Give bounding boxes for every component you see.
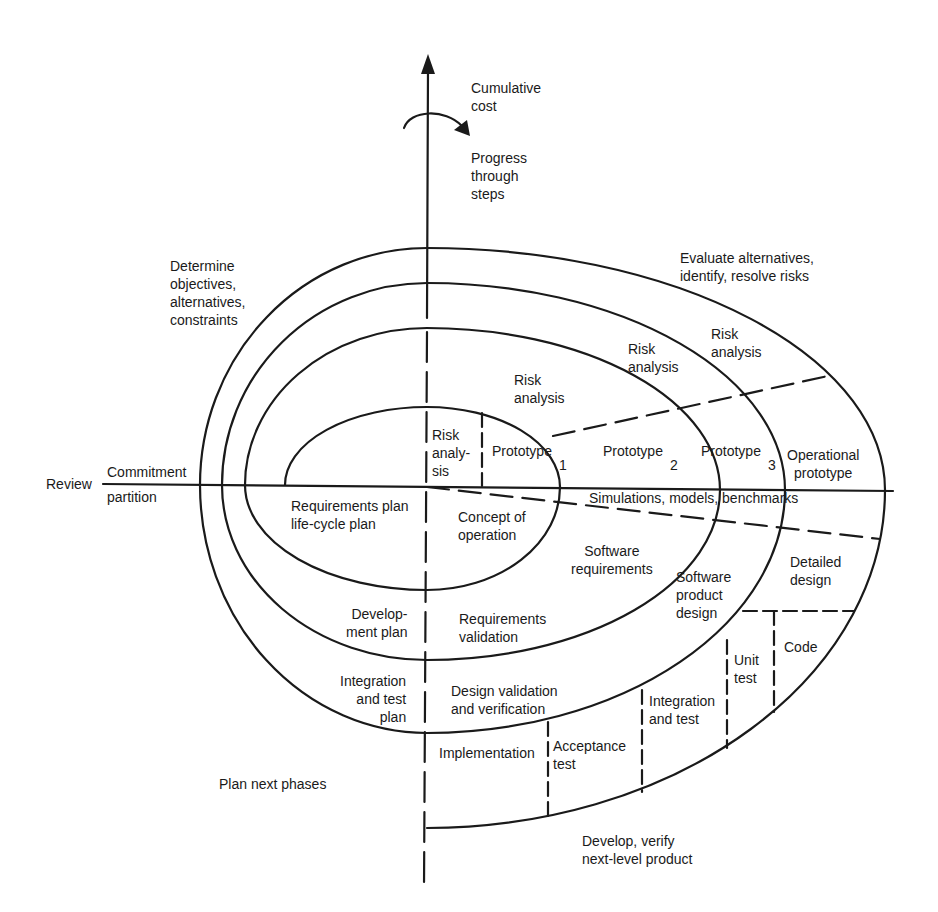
review-label: Review bbox=[46, 475, 92, 493]
integration-and-test-label: Integration and test bbox=[649, 692, 715, 728]
quadrant-determine-objectives: Determine objectives, alternatives, cons… bbox=[170, 257, 245, 329]
quadrant-evaluate-alternatives: Evaluate alternatives, identify, resolve… bbox=[680, 249, 814, 285]
design-validation-label: Design validation and verification bbox=[451, 682, 558, 718]
unit-test-label: Unit test bbox=[734, 651, 759, 687]
vertical-axis-upper bbox=[427, 68, 428, 318]
spiral-model-diagram: Cumulative cost Progress through steps R… bbox=[0, 0, 938, 912]
implementation-label: Implementation bbox=[439, 744, 535, 762]
detailed-design-label: Detailed design bbox=[790, 553, 841, 589]
commitment-label: Commitment bbox=[107, 463, 186, 481]
requirements-plan-label: Requirements plan life-cycle plan bbox=[291, 497, 409, 533]
acceptance-test-label: Acceptance test bbox=[553, 737, 626, 773]
risk-analysis-1: Risk analy- sis bbox=[432, 426, 470, 480]
progress-label: Progress through steps bbox=[471, 149, 527, 203]
code-label: Code bbox=[784, 638, 817, 656]
cumulative-cost-arrowhead bbox=[421, 54, 435, 74]
spiral-curve bbox=[200, 248, 885, 828]
concept-of-operation-label: Concept of operation bbox=[458, 508, 526, 544]
partition-label: partition bbox=[107, 488, 157, 506]
development-plan-label: Develop- ment plan bbox=[346, 605, 407, 641]
risk-prototype-divider bbox=[553, 376, 828, 436]
prototype-3-label: Prototype bbox=[701, 442, 761, 460]
prototype-3-index: 3 bbox=[768, 457, 776, 473]
risk-analysis-3: Risk analysis bbox=[628, 340, 679, 376]
cumulative-cost-label: Cumulative cost bbox=[471, 79, 541, 115]
software-requirements-label: Software requirements bbox=[571, 542, 653, 578]
prototype-2-label: Prototype bbox=[603, 442, 663, 460]
integration-test-plan-label: Integration and test plan bbox=[340, 672, 406, 726]
software-product-design-label: Software product design bbox=[676, 568, 731, 622]
prototype-2-index: 2 bbox=[670, 457, 678, 473]
requirements-validation-label: Requirements validation bbox=[459, 610, 546, 646]
vertical-axis-dashed bbox=[424, 332, 427, 890]
operational-prototype-label: Operational prototype bbox=[787, 446, 859, 482]
quadrant-develop-verify: Develop, verify next-level product bbox=[582, 832, 693, 868]
risk-analysis-2: Risk analysis bbox=[514, 371, 565, 407]
risk-analysis-4: Risk analysis bbox=[711, 325, 762, 361]
simulations-label: Simulations, models, benchmarks bbox=[589, 489, 798, 507]
quadrant-plan-next-phases: Plan next phases bbox=[219, 775, 326, 793]
progress-rotation-arrow bbox=[404, 113, 462, 128]
prototype-1-label: Prototype bbox=[492, 442, 552, 460]
prototype-1-index: 1 bbox=[559, 457, 567, 473]
